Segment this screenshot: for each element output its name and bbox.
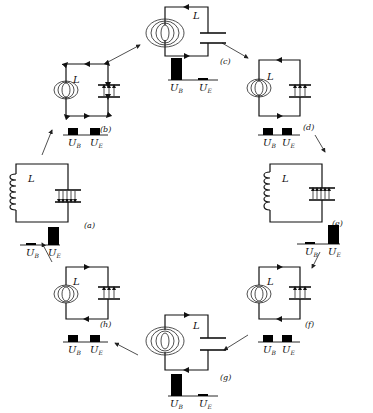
svg-text:L: L bbox=[266, 276, 274, 287]
svg-text:L: L bbox=[72, 74, 80, 85]
svg-text:(a): (a) bbox=[84, 221, 95, 230]
svg-text:UB: UB bbox=[170, 398, 183, 410]
arrow-d-to-e bbox=[315, 135, 325, 152]
panel-f: L (f) UB UE bbox=[247, 267, 314, 356]
svg-text:(b): (b) bbox=[100, 125, 111, 134]
svg-text:L: L bbox=[27, 173, 35, 184]
energy-bar-ub bbox=[26, 243, 36, 245]
arrow-c-to-d bbox=[222, 43, 248, 58]
svg-text:(f): (f) bbox=[305, 320, 314, 329]
cycle-arrows bbox=[42, 43, 325, 355]
svg-text:UB: UB bbox=[68, 344, 81, 356]
panel-b: L (b) UB UE bbox=[54, 64, 120, 149]
svg-text:L: L bbox=[72, 276, 80, 287]
svg-text:UB: UB bbox=[263, 344, 276, 356]
svg-text:UE: UE bbox=[328, 246, 341, 258]
panel-h: L (h) UB UE bbox=[54, 267, 120, 356]
svg-text:L: L bbox=[281, 173, 289, 184]
panel-e: L (e) UB UE bbox=[264, 164, 343, 258]
svg-text:UB: UB bbox=[26, 247, 39, 259]
arrow-a-to-b bbox=[42, 130, 52, 155]
svg-text:L: L bbox=[192, 320, 200, 331]
svg-text:UE: UE bbox=[90, 137, 103, 149]
panel-a: L (a) UB UE bbox=[10, 164, 95, 259]
svg-text:(h): (h) bbox=[100, 320, 111, 329]
coil-inductor bbox=[10, 174, 16, 210]
arrow-g-to-h bbox=[115, 343, 138, 355]
svg-text:(g): (g) bbox=[220, 373, 231, 382]
arrow-b-to-c bbox=[108, 45, 140, 62]
svg-text:(d): (d) bbox=[303, 123, 314, 132]
panel-c: L (c) UB UE bbox=[146, 7, 231, 94]
svg-text:UE: UE bbox=[199, 398, 212, 410]
svg-text:L: L bbox=[266, 71, 274, 82]
svg-text:(c): (c) bbox=[220, 57, 231, 66]
svg-text:UE: UE bbox=[282, 137, 295, 149]
magnetic-field-lines bbox=[146, 19, 184, 47]
svg-text:UB: UB bbox=[170, 82, 183, 94]
svg-text:UE: UE bbox=[199, 82, 212, 94]
energy-bar-ue bbox=[48, 227, 59, 245]
svg-text:UB: UB bbox=[68, 137, 81, 149]
svg-text:UB: UB bbox=[263, 137, 276, 149]
svg-text:UE: UE bbox=[48, 247, 61, 259]
panel-g: L (g) UB UE bbox=[146, 315, 231, 410]
lc-oscillation-diagram: L (a) UB UE L (b) UB UE L bbox=[0, 0, 373, 413]
svg-text:UB: UB bbox=[305, 246, 318, 258]
svg-text:UE: UE bbox=[90, 344, 103, 356]
arrow-f-to-g bbox=[224, 335, 248, 350]
svg-text:UE: UE bbox=[282, 344, 295, 356]
svg-text:L: L bbox=[192, 10, 200, 21]
panel-d: L (d) UB UE bbox=[247, 60, 314, 149]
coil-inductor bbox=[264, 172, 270, 210]
